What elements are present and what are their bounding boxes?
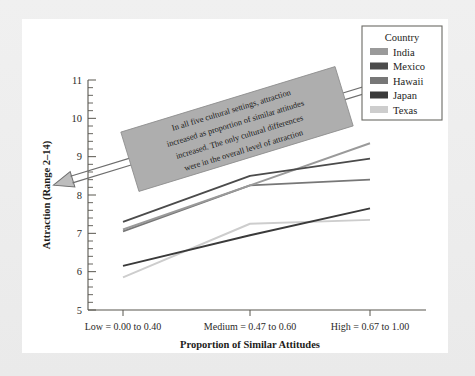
page-background: 11 10 9 8 7 6 5 Low = 0.00 to 0.40 Mediu — [0, 0, 475, 376]
x-tick-label: Low = 0.00 to 0.40 — [85, 321, 162, 332]
y-tick-label: 8 — [77, 190, 82, 201]
series-line-texas — [123, 220, 370, 278]
figure-canvas: 11 10 9 8 7 6 5 Low = 0.00 to 0.40 Mediu — [22, 19, 448, 353]
legend-swatch-india — [370, 48, 388, 55]
line-chart: 11 10 9 8 7 6 5 Low = 0.00 to 0.40 Mediu — [22, 19, 448, 353]
legend-label-india: India — [393, 47, 415, 58]
x-axis-title: Proportion of Similar Attitudes — [180, 339, 320, 350]
y-axis-title: Attraction (Range 2–14) — [41, 140, 53, 249]
x-tick-label: High = 0.67 to 1.00 — [331, 321, 409, 332]
legend-swatch-hawaii — [370, 77, 388, 84]
legend-swatch-mexico — [370, 63, 388, 70]
y-tick-label: 10 — [72, 113, 83, 124]
arrow-left-head — [51, 172, 75, 193]
x-axis-tick-labels: Low = 0.00 to 0.40 Medium = 0.47 to 0.60… — [85, 321, 410, 332]
y-tick-label: 7 — [77, 228, 82, 239]
legend-label-mexico: Mexico — [393, 61, 425, 72]
annotation-banner — [121, 67, 353, 192]
y-tick-label: 11 — [72, 75, 82, 86]
legend-label-texas: Texas — [393, 105, 417, 116]
legend-swatch-japan — [370, 92, 388, 99]
y-axis-ticks — [88, 80, 96, 310]
y-tick-label: 5 — [77, 305, 82, 316]
y-axis-tick-labels: 11 10 9 8 7 6 5 — [72, 75, 83, 316]
legend-swatch-texas — [370, 106, 388, 113]
x-tick-label: Medium = 0.47 to 0.60 — [204, 321, 296, 332]
legend-title: Country — [385, 32, 420, 43]
legend-label-hawaii: Hawaii — [393, 76, 423, 87]
legend[interactable]: Country India Mexico Hawaii — [362, 26, 442, 120]
y-tick-label: 6 — [77, 266, 82, 277]
legend-label-japan: Japan — [393, 90, 418, 101]
x-axis-ticks — [123, 310, 370, 316]
chart-svg: 11 10 9 8 7 6 5 Low = 0.00 to 0.40 Mediu — [22, 19, 448, 353]
y-tick-label: 9 — [77, 151, 82, 162]
